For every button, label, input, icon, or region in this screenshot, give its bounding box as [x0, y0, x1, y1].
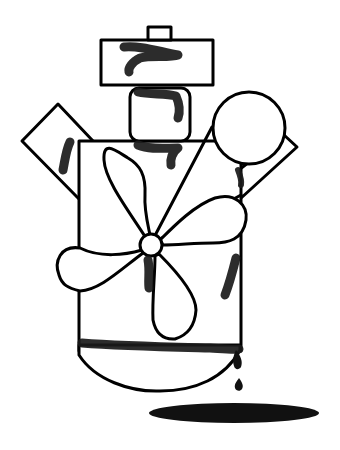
- ink-drips: [233, 350, 243, 391]
- propeller-hub: [140, 234, 162, 256]
- top-cap: [148, 27, 171, 40]
- ink-drip-2: [235, 378, 243, 391]
- ink-smudge-hub: [148, 260, 149, 288]
- illustration-canvas: [0, 0, 340, 450]
- circle-wheel: [213, 92, 285, 164]
- ink-level-line: [82, 343, 239, 349]
- ink-smudge-circle: [238, 170, 241, 185]
- machine-drawing: [0, 0, 340, 450]
- ink-puddle: [149, 403, 319, 423]
